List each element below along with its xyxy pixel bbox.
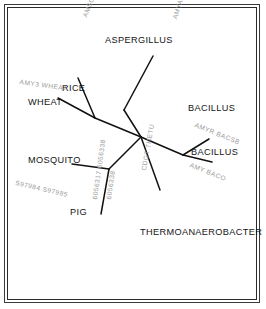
branch-center-to-animal-node [109, 137, 141, 169]
figure-canvas: ASPERGILLUSAMYA ASPORRICEAMSC ORYSAWHEAT… [0, 0, 266, 309]
taxon-label-bacillus-1: BACILLUS [188, 104, 235, 113]
branch-aspergillus-node-to-tip [124, 56, 153, 110]
taxon-label-wheat: WHEAT [28, 98, 62, 107]
taxon-label-pig: PIG [70, 208, 87, 217]
taxon-label-mosquito: MOSQUITO [28, 156, 81, 165]
taxon-label-thermoanaerobacter: THERMOANAEROBACTER [140, 228, 262, 237]
branch-plant-node-to-wheat [58, 98, 95, 118]
taxon-label-aspergillus: ASPERGILLUS [105, 36, 173, 45]
taxon-label-bacillus-2: BACILLUS [191, 148, 238, 157]
branch-center-to-plant-node [95, 118, 141, 137]
